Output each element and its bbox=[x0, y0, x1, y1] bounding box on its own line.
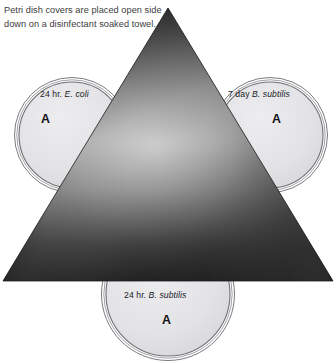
figure-canvas: Petri dish covers are placed open side d… bbox=[0, 0, 336, 363]
dish-label-left: 24 hr. E. coli bbox=[40, 89, 89, 99]
dish-bottom-time: 24 hr. bbox=[124, 290, 146, 300]
dish-left-species: E. coli bbox=[65, 89, 89, 99]
dish-label-right: 7 day B. subtilis bbox=[228, 89, 290, 99]
dish-bottom-species: B. subtilis bbox=[149, 290, 187, 300]
dish-bottom-letter: A bbox=[162, 313, 171, 327]
dish-right-time: 7 day bbox=[228, 89, 250, 99]
dish-left-letter: A bbox=[41, 112, 50, 126]
dish-right-species: B. subtilis bbox=[252, 89, 290, 99]
dish-left-time: 24 hr. bbox=[40, 89, 62, 99]
dish-right-letter: A bbox=[272, 112, 281, 126]
dish-label-bottom: 24 hr. B. subtilis bbox=[124, 290, 187, 300]
figure-caption: Petri dish covers are placed open side d… bbox=[4, 3, 174, 31]
petri-dish-diagram bbox=[0, 0, 336, 363]
